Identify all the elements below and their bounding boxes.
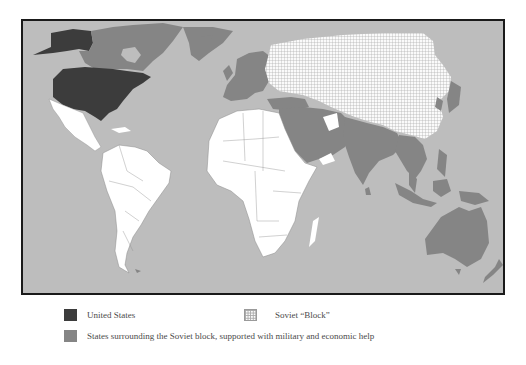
- map-canvas: [23, 21, 503, 293]
- legend-label-surrounding-states: States surrounding the Soviet block, sup…: [87, 331, 374, 341]
- legend-item-soviet-block: Soviet “Block”: [244, 309, 330, 321]
- soviet-block-swatch: [244, 309, 257, 321]
- united-states-swatch: [64, 309, 77, 321]
- legend-item-surrounding-states: States surrounding the Soviet block, sup…: [64, 330, 374, 342]
- surrounding-states-swatch: [64, 330, 77, 342]
- legend-label-soviet-block: Soviet “Block”: [275, 310, 330, 320]
- legend-label-united-states: United States: [87, 310, 135, 320]
- world-map: [21, 19, 505, 295]
- legend-item-united-states: United States: [64, 309, 135, 321]
